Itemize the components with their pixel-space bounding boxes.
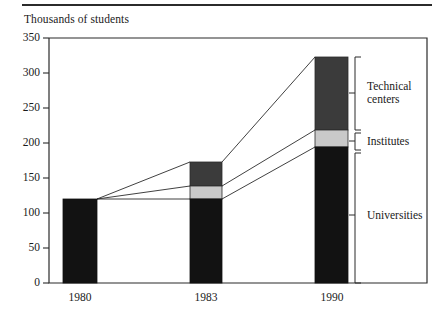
bar-1983-technical-centers[interactable] [190,162,222,186]
bar-1980-universities[interactable] [63,199,97,283]
y-axis-ticks [43,38,49,283]
legend-label-technical-centers-line1: Technical [367,80,412,93]
legend-brace-technical-centers [349,57,361,130]
y-tick-label-350: 350 [12,31,40,43]
bar-1983-universities[interactable] [190,199,222,283]
x-tick-label-1990: 1990 [302,291,362,303]
x-tick-label-1983: 1983 [176,291,236,303]
plot-frame [49,38,427,283]
legend-brace-universities [349,153,361,283]
legend-brace-institutes [349,133,361,150]
legend-label-technical-centers: Technical centers [367,80,412,106]
y-tick-label-50: 50 [12,241,40,253]
y-tick-label-150: 150 [12,171,40,183]
legend-label-technical-centers-line2: centers [367,93,412,106]
chart-plot-area [0,0,447,323]
bar-1983[interactable] [190,162,222,283]
bar-1983-institutes[interactable] [190,186,222,199]
y-tick-label-300: 300 [12,66,40,78]
x-tick-label-1980: 1980 [50,291,110,303]
bar-1990[interactable] [315,57,348,283]
legend-label-universities: Universities [367,209,423,222]
bar-1990-institutes[interactable] [315,130,348,147]
bar-1990-universities[interactable] [315,147,348,283]
legend-label-institutes: Institutes [367,135,409,148]
connector-lines-1983-1990 [222,57,315,199]
y-tick-label-0: 0 [12,276,40,288]
y-tick-label-100: 100 [12,206,40,218]
y-tick-label-250: 250 [12,101,40,113]
y-tick-label-200: 200 [12,136,40,148]
bar-1980[interactable] [63,199,97,283]
chart-figure: Thousands of students [0,0,447,323]
bar-1990-technical-centers[interactable] [315,57,348,130]
connector-lines-1980-1983 [97,162,190,199]
